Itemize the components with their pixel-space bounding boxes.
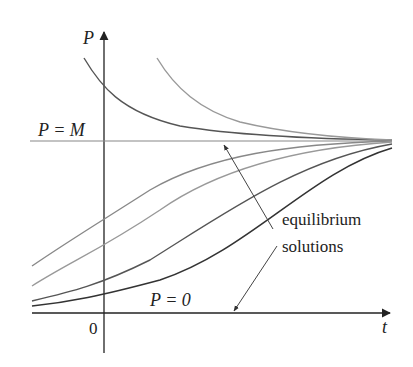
y-axis-label: P xyxy=(82,28,94,48)
solution-curve-above-1 xyxy=(84,58,392,140)
annotation-arrow-to-m xyxy=(224,145,273,229)
x-axis-label: t xyxy=(382,317,388,337)
annotation-arrow-to-zero xyxy=(234,246,277,311)
upper-equilibrium-label: P = M xyxy=(37,120,86,140)
lower-equilibrium-label: P = 0 xyxy=(149,290,191,310)
logistic-solutions-diagram: P t 0 P = M P = 0 equilibrium solutions xyxy=(0,0,413,367)
annotation-line-2: solutions xyxy=(282,237,343,256)
annotation-line-1: equilibrium xyxy=(282,210,361,229)
origin-label: 0 xyxy=(89,319,98,338)
